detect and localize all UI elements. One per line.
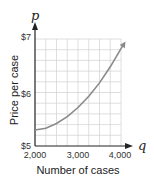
x-tick-3000: 3,000 [67,150,90,160]
price-chart: p q $7 $6 $5 2,000 3,000 4,000 Number of… [0,0,154,183]
price-curve [35,43,124,130]
x-tick-2000: 2,000 [24,150,47,160]
y-axis-title: Price per case [8,55,20,125]
x-variable-label: q [138,138,146,153]
y-tick-6: $6 [21,89,31,99]
y-axis-arrow-icon [32,22,38,30]
x-axis-title: Number of cases [36,164,120,176]
y-variable-label: p [31,8,40,23]
x-tick-4000: 4,000 [109,150,132,160]
y-tick-7: $7 [21,32,31,42]
grid [35,39,121,146]
x-axis-arrow-icon [125,143,133,149]
